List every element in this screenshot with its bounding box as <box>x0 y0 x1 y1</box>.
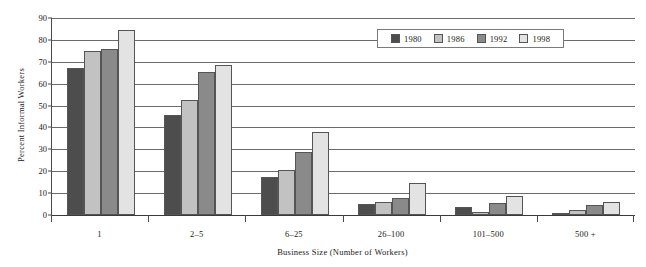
bar-1992-2-5[interactable] <box>198 72 215 215</box>
y-tick-label: 80 <box>39 35 48 45</box>
bar-1992-6-25[interactable] <box>295 152 312 215</box>
x-tick-mark <box>633 215 634 222</box>
bar-group <box>246 18 343 215</box>
legend-swatch-icon <box>391 34 400 43</box>
x-tick-cell: 6–25 <box>245 215 342 245</box>
x-tick-cell: 500 + <box>537 215 634 245</box>
legend-swatch-icon <box>434 34 443 43</box>
x-tick-cell: 101–500 <box>440 215 537 245</box>
bar-1992-26-100[interactable] <box>392 198 409 216</box>
x-tick-label: 101–500 <box>440 229 537 239</box>
bar-group-inner <box>261 18 329 215</box>
bar-1998-101-500[interactable] <box>506 196 523 215</box>
bar-group <box>52 18 149 215</box>
legend: 1980198619921998 <box>377 29 564 48</box>
x-tick-label: 2–5 <box>148 229 245 239</box>
x-tick-cell: 2–5 <box>148 215 245 245</box>
x-tick-label: 26–100 <box>343 229 440 239</box>
x-tick-label: 1 <box>51 229 148 239</box>
legend-label: 1998 <box>532 34 550 44</box>
legend-label: 1992 <box>490 34 508 44</box>
y-tick-label: 0 <box>43 210 47 220</box>
bar-1992-1[interactable] <box>101 49 118 215</box>
x-tick-mark <box>440 215 441 222</box>
y-tick-label: 40 <box>39 122 48 132</box>
x-tick-mark <box>343 215 344 222</box>
legend-entry-1992[interactable]: 1992 <box>477 34 508 44</box>
x-tick-label: 6–25 <box>245 229 342 239</box>
y-tick-label: 70 <box>39 57 48 67</box>
legend-entry-1980[interactable]: 1980 <box>391 34 422 44</box>
x-tick-mark <box>245 215 246 222</box>
x-tick-cell: 26–100 <box>343 215 440 245</box>
y-tick-label: 10 <box>39 188 48 198</box>
bar-1986-26-100[interactable] <box>375 202 392 215</box>
x-tick-mark <box>148 215 149 222</box>
legend-entry-1986[interactable]: 1986 <box>434 34 465 44</box>
bar-group-inner <box>164 18 232 215</box>
bar-group-inner <box>67 18 135 215</box>
x-axis-ticks: 12–56–2526–100101–500500 + <box>51 215 634 245</box>
x-tick-label: 500 + <box>537 229 634 239</box>
bar-1980-26-100[interactable] <box>358 204 375 215</box>
x-axis-title: Business Size (Number of Workers) <box>51 247 634 257</box>
bar-1980-2-5[interactable] <box>164 115 181 215</box>
bar-1998-6-25[interactable] <box>312 132 329 215</box>
bar-1992-500-+[interactable] <box>586 205 603 215</box>
legend-entry-1998[interactable]: 1998 <box>519 34 550 44</box>
bar-1986-2-5[interactable] <box>181 100 198 215</box>
y-axis-title: Percent Informal Workers <box>16 15 26 215</box>
legend-label: 1986 <box>447 34 465 44</box>
x-tick-mark <box>51 215 52 222</box>
bar-1980-6-25[interactable] <box>261 177 278 215</box>
bar-1998-1[interactable] <box>118 30 135 215</box>
legend-label: 1980 <box>404 34 422 44</box>
x-tick-mark <box>537 215 538 222</box>
bar-1992-101-500[interactable] <box>489 203 506 215</box>
legend-swatch-icon <box>519 34 528 43</box>
bar-1986-1[interactable] <box>84 51 101 215</box>
y-tick-label: 50 <box>39 101 48 111</box>
bar-1998-2-5[interactable] <box>215 65 232 215</box>
bar-1986-6-25[interactable] <box>278 170 295 215</box>
bar-1980-101-500[interactable] <box>455 207 472 215</box>
bar-group <box>149 18 246 215</box>
y-tick-label: 30 <box>39 144 48 154</box>
bar-1980-1[interactable] <box>67 68 84 215</box>
bar-chart-figure: Percent Informal Workers 010203040506070… <box>0 0 646 267</box>
legend-swatch-icon <box>477 34 486 43</box>
bar-1998-26-100[interactable] <box>409 183 426 215</box>
y-tick-label: 20 <box>39 166 48 176</box>
y-tick-label: 60 <box>39 79 48 89</box>
bar-1998-500-+[interactable] <box>603 202 620 215</box>
y-tick-label: 90 <box>39 13 48 23</box>
x-tick-cell: 1 <box>51 215 148 245</box>
